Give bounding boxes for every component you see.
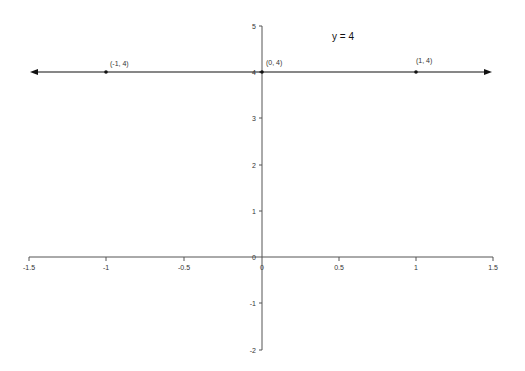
x-tick-label: 0.5 [334,264,344,271]
x-tick-label: 1 [414,264,418,271]
y-tick-label: -2 [250,347,256,354]
y-tick-label: 1 [252,208,256,215]
y-tick-label: 0 [252,254,256,261]
x-tick-label: -1 [103,264,109,271]
chart-title: y = 4 [332,31,354,42]
data-point [104,70,108,74]
point-label: (0, 4) [266,59,282,67]
arrow-left-icon [30,69,38,75]
y-tick-label: -1 [250,300,256,307]
y-tick-label: 2 [252,162,256,169]
arrow-right-icon [484,69,492,75]
x-axis: -1.5 -1 -0.5 0 0.5 1 1.5 [23,257,498,271]
data-point [260,70,264,74]
x-tick-label: -1.5 [23,264,35,271]
x-tick-label: -0.5 [178,264,190,271]
y-tick-label: 3 [252,115,256,122]
y-axis: 5 4 3 2 1 0 -1 -2 [250,23,262,354]
data-points: (-1, 4) (0, 4) (1, 4) [104,57,432,74]
data-point [414,70,418,74]
point-label: (-1, 4) [110,60,129,68]
y-tick-label: 5 [252,23,256,30]
x-tick-label: 1.5 [488,264,498,271]
chart-canvas: -1.5 -1 -0.5 0 0.5 1 1.5 5 4 3 2 1 0 -1 … [0,0,525,371]
point-label: (1, 4) [416,57,432,65]
